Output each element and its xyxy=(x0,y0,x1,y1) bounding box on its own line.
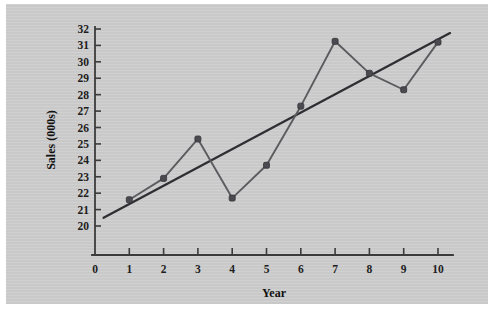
y-tick-label: 22 xyxy=(78,187,90,199)
y-tick-label: 31 xyxy=(78,39,90,51)
y-tick-label: 20 xyxy=(78,220,90,232)
x-axis-title: Year xyxy=(262,286,287,300)
x-tick-label: 1 xyxy=(126,263,132,275)
line-chart: 20212223242526272829303132 012345678910 … xyxy=(0,0,494,317)
data-point-marker: Year 6: 27.3 xyxy=(298,103,304,109)
y-tick-label: 32 xyxy=(78,23,90,35)
data-point-marker: Year 10: 31.2 xyxy=(435,39,441,45)
x-tick-label: 6 xyxy=(298,263,304,275)
y-tick-label: 24 xyxy=(78,154,90,166)
y-tick-label: 21 xyxy=(78,204,90,216)
data-point-marker: Year 1: 21.6 xyxy=(126,197,132,203)
x-tick-label: 4 xyxy=(229,263,235,275)
y-axis-title: Sales (000s) xyxy=(44,110,58,170)
x-tick-label: 2 xyxy=(161,263,167,275)
data-point-marker: Year 9: 28.3 xyxy=(401,87,407,93)
x-tick-label: 10 xyxy=(432,263,444,275)
x-tick-label: 8 xyxy=(367,263,373,275)
data-point-marker: Year 2: 22.9 xyxy=(161,175,167,181)
data-point-marker: Year 5: 23.7 xyxy=(264,162,270,168)
x-tick-label: 9 xyxy=(401,263,407,275)
data-point-marker: Year 3: 25.3 xyxy=(195,136,201,142)
y-tick-label: 28 xyxy=(78,89,90,101)
y-tick-label: 27 xyxy=(78,105,90,117)
figure-root: 20212223242526272829303132 012345678910 … xyxy=(0,0,494,317)
y-tick-label: 23 xyxy=(78,171,90,183)
x-tick-label: 5 xyxy=(264,263,270,275)
x-axis-ticks: 012345678910 xyxy=(92,248,444,275)
y-tick-label: 25 xyxy=(78,138,90,150)
y-tick-label: 29 xyxy=(78,72,90,84)
y-axis-ticks: 20212223242526272829303132 xyxy=(78,23,102,232)
x-tick-label: 7 xyxy=(332,263,338,275)
trend-line xyxy=(104,33,450,218)
x-tick-label: 3 xyxy=(195,263,201,275)
y-tick-label: 30 xyxy=(78,56,90,68)
y-tick-label: 26 xyxy=(78,122,90,134)
data-point-marker: Year 7: 31.25 xyxy=(332,38,338,44)
data-point-marker: Year 8: 29.3 xyxy=(366,70,372,76)
data-point-marker: Year 4: 21.7 xyxy=(229,195,235,201)
x-tick-label: 0 xyxy=(92,263,98,275)
